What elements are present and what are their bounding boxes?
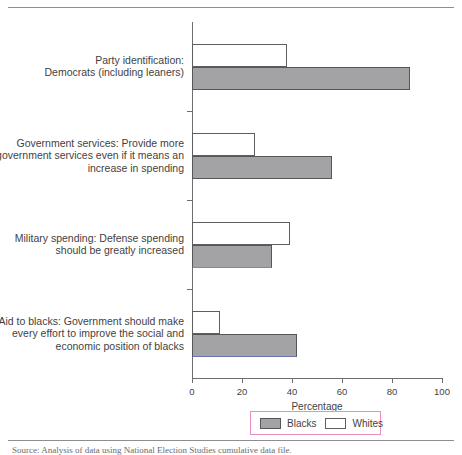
bar-blacks	[192, 67, 410, 90]
category-label-line: Government services: Provide more	[0, 137, 184, 150]
x-tick-mark	[242, 378, 243, 383]
legend-entry-whites[interactable]: Whites	[325, 418, 383, 429]
x-tick-label: 80	[387, 386, 398, 397]
category-label-line: should be greatly increased	[0, 244, 184, 257]
category-label-line: Aid to blacks: Government should make	[0, 315, 184, 328]
category-label: Aid to blacks: Government should makeeve…	[0, 315, 184, 353]
legend-label: Blacks	[287, 418, 316, 429]
bar-blacks	[192, 156, 332, 179]
figure-container: 020406080100 Party identification:Democr…	[0, 0, 462, 455]
y-tick-mark	[187, 111, 192, 112]
x-tick-mark	[192, 378, 193, 383]
category-label: Government services: Provide moregovernm…	[0, 137, 184, 175]
category-label: Party identification:Democrats (includin…	[0, 54, 184, 79]
category-label-line: Military spending: Defense spending	[0, 232, 184, 245]
legend-entry-blacks[interactable]: Blacks	[260, 418, 316, 429]
legend-swatch-gray	[260, 418, 281, 429]
plot-area: 020406080100 Party identification:Democr…	[192, 22, 442, 378]
source-caption: Source: Analysis of data using National …	[12, 445, 452, 455]
category-label-line: Democrats (including leaners)	[0, 66, 184, 79]
bar-whites	[192, 222, 290, 245]
top-divider-rule	[8, 7, 454, 8]
bar-whites	[192, 44, 287, 67]
x-tick-label: 60	[337, 386, 348, 397]
x-tick-label: 40	[287, 386, 298, 397]
chart-legend: BlacksWhites	[250, 411, 381, 435]
bar-blacks	[192, 245, 272, 268]
x-tick-label: 20	[237, 386, 248, 397]
bar-whites	[192, 133, 255, 156]
bar-blacks	[192, 334, 297, 357]
legend-label: Whites	[352, 418, 383, 429]
bar-whites	[192, 311, 220, 334]
x-tick-mark	[392, 378, 393, 383]
category-label-line: Party identification:	[0, 54, 184, 67]
category-label-line: government services even if it means an	[0, 149, 184, 162]
y-tick-mark	[187, 289, 192, 290]
x-axis-line	[192, 378, 442, 379]
x-tick-mark	[292, 378, 293, 383]
category-label-line: economic position of blacks	[0, 340, 184, 353]
x-tick-label: 0	[189, 386, 194, 397]
x-tick-mark	[342, 378, 343, 383]
category-label-line: increase in spending	[0, 162, 184, 175]
x-tick-label: 100	[434, 386, 450, 397]
bottom-divider-rule	[8, 440, 454, 441]
legend-swatch-white	[325, 418, 346, 429]
category-label: Military spending: Defense spendingshoul…	[0, 232, 184, 257]
category-label-line: every effort to improve the social and	[0, 327, 184, 340]
y-tick-mark	[187, 200, 192, 201]
x-tick-mark	[442, 378, 443, 383]
